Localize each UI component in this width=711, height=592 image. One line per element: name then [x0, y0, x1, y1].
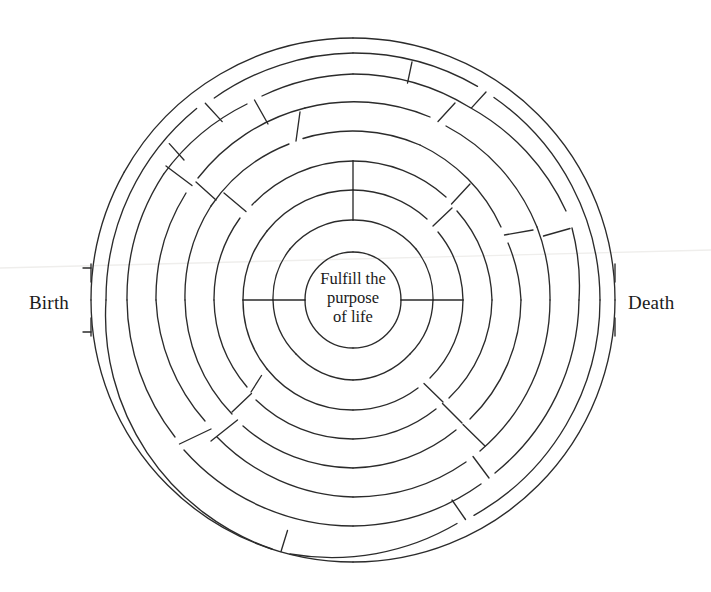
arc-r6-a: [156, 193, 186, 300]
arc-r4-h: [214, 300, 247, 387]
arc-r4-a: [214, 218, 240, 300]
circular-maze-figure: Birth Death Fulfill the purpose of life: [0, 0, 711, 592]
arc-r8-d: [494, 98, 600, 301]
radial-r6r5-n: [296, 112, 300, 141]
arc-r3-f: [353, 388, 418, 410]
center-text-line-2: purpose: [293, 288, 413, 307]
arc-r2-a: [273, 249, 290, 300]
arc-r5-g: [353, 430, 456, 468]
arc-r5-i: [185, 300, 232, 414]
arc-r7-c: [262, 74, 353, 96]
arc-r3-g: [267, 369, 353, 410]
radial-r8r7-se: [452, 500, 466, 520]
radial-r6r5-nw: [196, 182, 216, 200]
radial-r6r5-se: [463, 425, 485, 447]
radial-r7r6-nnw: [255, 100, 269, 124]
radial-r5r4-ne: [452, 184, 471, 204]
arc-r8-f: [290, 524, 457, 558]
radial-r5r4-sw: [232, 394, 252, 413]
arc-r3-e: [430, 300, 463, 378]
arc-r7-j: [127, 300, 175, 437]
center-text-line-3: of life: [293, 307, 413, 326]
arc-r6-c: [305, 102, 430, 117]
radial-r4r3-ne: [433, 208, 452, 226]
arc-r7-a: [127, 174, 164, 300]
arc-r2-e: [410, 300, 433, 354]
exit-label-death: Death: [628, 292, 674, 314]
arc-r4-f: [353, 409, 436, 439]
arc-r6-b: [198, 108, 305, 178]
arc-r5-b: [211, 144, 289, 206]
arc-r7-h: [353, 484, 481, 526]
center-text-line-1: Fulfill the: [293, 269, 413, 288]
radial-r5r4-nw: [224, 193, 246, 212]
arc-r2-g: [296, 354, 353, 380]
arc-r7-g: [495, 300, 579, 473]
arc-r3-c: [353, 190, 427, 219]
arc-r2-b: [290, 220, 353, 249]
radial-r7r6-nne: [438, 103, 455, 122]
arc-r5-a: [185, 206, 211, 300]
arc-r3-a: [243, 231, 267, 300]
radial-r7r6-nw: [166, 166, 192, 186]
radial-r7r6-sw: [180, 429, 212, 444]
arc-r9-a: [91, 172, 124, 300]
arc-r2-c: [353, 220, 416, 249]
arc-r8-a: [106, 109, 197, 301]
radial-r4r3-sw: [251, 376, 262, 393]
arc-r3-h: [243, 300, 267, 369]
maze-center-text: Fulfill the purpose of life: [293, 269, 413, 326]
arc-r7-b: [164, 104, 247, 174]
arc-r5-c: [303, 131, 420, 145]
arc-r7-i: [184, 450, 353, 526]
arc-r4-e: [449, 300, 492, 398]
arc-r8-c: [353, 53, 478, 86]
arc-r3-b: [267, 190, 353, 231]
arc-r8-e: [474, 300, 600, 515]
radial-r7r6-se: [473, 457, 489, 479]
entrance-label-birth: Birth: [29, 292, 69, 314]
radial-r8r7-ne: [472, 92, 487, 108]
arc-r7-e: [470, 108, 566, 212]
arc-r3-d: [438, 232, 463, 300]
arc-r2-f: [353, 354, 410, 380]
radial-r4r3-se: [424, 384, 443, 403]
arc-r6-d: [446, 126, 537, 227]
arc-r4-b: [252, 161, 353, 205]
radial-r8r7-n: [408, 62, 413, 83]
radial-r6r5-e: [505, 230, 534, 235]
arc-r4-g: [256, 400, 353, 439]
radial-r8r7-nw: [205, 103, 222, 121]
arc-r5-e: [508, 243, 521, 300]
arc-r6-e: [537, 227, 550, 300]
radial-r7r6-e: [544, 229, 571, 237]
radial-r6r5-sw: [211, 420, 238, 441]
radial-r5r4-se: [443, 404, 463, 424]
arc-r5-h: [243, 426, 353, 468]
arc-r7-f: [572, 228, 579, 300]
radial-r8r7-sw: [281, 531, 288, 552]
arc-r6-f: [480, 300, 550, 451]
